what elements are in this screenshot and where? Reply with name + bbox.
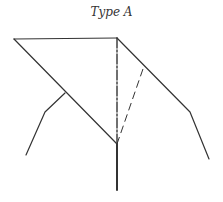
right-branch — [117, 38, 209, 159]
left-diagonal — [14, 39, 117, 144]
top-edge — [14, 38, 117, 39]
dashed-edge — [117, 66, 144, 144]
tree-diagram — [0, 0, 223, 202]
left-branch — [26, 93, 65, 155]
